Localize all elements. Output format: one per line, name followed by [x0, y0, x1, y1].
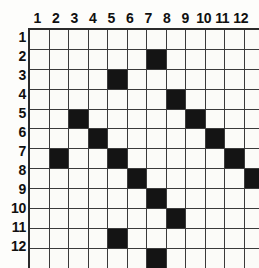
grid-cell-r5-c2[interactable]	[49, 109, 69, 129]
grid-cell-r11-c5[interactable]	[108, 228, 128, 248]
grid-cell-r2-c2[interactable]	[49, 49, 69, 69]
grid-cell-r3-c10[interactable]	[205, 69, 225, 89]
grid-cell-r10-c7[interactable]	[147, 209, 167, 229]
grid-cell-r2-c10[interactable]	[205, 49, 225, 69]
grid-cell-r11-c6[interactable]	[127, 228, 147, 248]
grid-cell-r9-c12[interactable]	[244, 189, 259, 209]
grid-cell-r6-c11[interactable]	[225, 129, 245, 149]
grid-cell-r1-c1[interactable]	[29, 29, 49, 49]
grid-cell-r3-c1[interactable]	[29, 69, 49, 89]
grid-cell-r10-c1[interactable]	[29, 209, 49, 229]
grid-cell-r11-c12[interactable]	[244, 228, 259, 248]
grid-cell-r11-c9[interactable]	[186, 228, 206, 248]
grid-cell-r4-c10[interactable]	[205, 89, 225, 109]
grid-cell-r10-c6[interactable]	[127, 209, 147, 229]
grid-cell-r3-c5[interactable]	[108, 69, 128, 89]
grid-cell-r6-c10[interactable]	[205, 129, 225, 149]
grid-cell-r4-c4[interactable]	[88, 89, 108, 109]
grid-cell-r2-c11[interactable]	[225, 49, 245, 69]
grid-cell-r5-c7[interactable]	[147, 109, 167, 129]
grid-table[interactable]	[28, 28, 259, 268]
grid-cell-r6-c12[interactable]	[244, 129, 259, 149]
grid-cell-r7-c1[interactable]	[29, 149, 49, 169]
grid-cell-r7-c9[interactable]	[186, 149, 206, 169]
grid-cell-r10-c8[interactable]	[166, 209, 186, 229]
grid-cell-r9-c1[interactable]	[29, 189, 49, 209]
grid-cell-r6-c6[interactable]	[127, 129, 147, 149]
grid-cell-r8-c8[interactable]	[166, 169, 186, 189]
grid-cell-r2-c7[interactable]	[147, 49, 167, 69]
grid-cell-r2-c9[interactable]	[186, 49, 206, 69]
grid-cell-r3-c7[interactable]	[147, 69, 167, 89]
grid-cell-r3-c9[interactable]	[186, 69, 206, 89]
grid-cell-r1-c11[interactable]	[225, 29, 245, 49]
grid-cell-r1-c2[interactable]	[49, 29, 69, 49]
grid-cell-r1-c4[interactable]	[88, 29, 108, 49]
grid-cell-r4-c1[interactable]	[29, 89, 49, 109]
grid-cell-r9-c4[interactable]	[88, 189, 108, 209]
grid-cell-r4-c6[interactable]	[127, 89, 147, 109]
grid-cell-r12-c11[interactable]	[225, 248, 245, 268]
grid-cell-r10-c9[interactable]	[186, 209, 206, 229]
grid-cell-r1-c8[interactable]	[166, 29, 186, 49]
grid-cell-r10-c2[interactable]	[49, 209, 69, 229]
grid-cell-r11-c3[interactable]	[69, 228, 89, 248]
grid-cell-r1-c5[interactable]	[108, 29, 128, 49]
grid-cell-r5-c9[interactable]	[186, 109, 206, 129]
grid-cell-r2-c4[interactable]	[88, 49, 108, 69]
grid-cell-r4-c3[interactable]	[69, 89, 89, 109]
grid-cell-r7-c5[interactable]	[108, 149, 128, 169]
grid-cell-r8-c1[interactable]	[29, 169, 49, 189]
grid-cell-r2-c5[interactable]	[108, 49, 128, 69]
grid-cell-r5-c8[interactable]	[166, 109, 186, 129]
grid-cell-r8-c5[interactable]	[108, 169, 128, 189]
grid-cell-r9-c6[interactable]	[127, 189, 147, 209]
grid-cell-r10-c4[interactable]	[88, 209, 108, 229]
grid-cell-r12-c6[interactable]	[127, 248, 147, 268]
grid-cell-r2-c3[interactable]	[69, 49, 89, 69]
grid-cell-r8-c3[interactable]	[69, 169, 89, 189]
grid-cell-r8-c12[interactable]	[244, 169, 259, 189]
grid-cell-r2-c6[interactable]	[127, 49, 147, 69]
grid-cell-r5-c12[interactable]	[244, 109, 259, 129]
grid-cell-r7-c11[interactable]	[225, 149, 245, 169]
grid-cell-r7-c6[interactable]	[127, 149, 147, 169]
grid-cell-r2-c1[interactable]	[29, 49, 49, 69]
grid-cell-r4-c12[interactable]	[244, 89, 259, 109]
grid-cell-r4-c8[interactable]	[166, 89, 186, 109]
grid-cell-r5-c1[interactable]	[29, 109, 49, 129]
grid-cell-r4-c2[interactable]	[49, 89, 69, 109]
grid-cell-r10-c12[interactable]	[244, 209, 259, 229]
grid-cell-r11-c4[interactable]	[88, 228, 108, 248]
grid-cell-r12-c1[interactable]	[29, 248, 49, 268]
grid-cell-r8-c6[interactable]	[127, 169, 147, 189]
grid-cell-r7-c10[interactable]	[205, 149, 225, 169]
grid-cell-r11-c11[interactable]	[225, 228, 245, 248]
grid-cell-r12-c10[interactable]	[205, 248, 225, 268]
grid-cell-r6-c1[interactable]	[29, 129, 49, 149]
grid-cell-r1-c10[interactable]	[205, 29, 225, 49]
grid-cell-r12-c5[interactable]	[108, 248, 128, 268]
grid-cell-r5-c3[interactable]	[69, 109, 89, 129]
grid-cell-r7-c7[interactable]	[147, 149, 167, 169]
grid-cell-r10-c11[interactable]	[225, 209, 245, 229]
grid-cell-r7-c4[interactable]	[88, 149, 108, 169]
grid-cell-r11-c2[interactable]	[49, 228, 69, 248]
grid-cell-r12-c9[interactable]	[186, 248, 206, 268]
grid-cell-r3-c11[interactable]	[225, 69, 245, 89]
grid-cell-r3-c8[interactable]	[166, 69, 186, 89]
grid-cell-r12-c4[interactable]	[88, 248, 108, 268]
grid-cell-r2-c8[interactable]	[166, 49, 186, 69]
grid-cell-r6-c4[interactable]	[88, 129, 108, 149]
grid-cell-r4-c11[interactable]	[225, 89, 245, 109]
grid-cell-r7-c2[interactable]	[49, 149, 69, 169]
grid-cell-r11-c10[interactable]	[205, 228, 225, 248]
grid-cell-r11-c1[interactable]	[29, 228, 49, 248]
grid-cell-r9-c9[interactable]	[186, 189, 206, 209]
grid-cell-r11-c7[interactable]	[147, 228, 167, 248]
grid-cell-r5-c5[interactable]	[108, 109, 128, 129]
grid-cell-r12-c7[interactable]	[147, 248, 167, 268]
grid-cell-r1-c3[interactable]	[69, 29, 89, 49]
grid-cell-r9-c8[interactable]	[166, 189, 186, 209]
grid-cell-r1-c9[interactable]	[186, 29, 206, 49]
